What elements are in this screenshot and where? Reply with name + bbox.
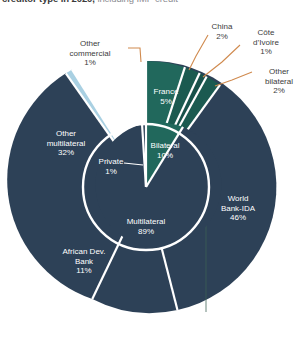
label-bilateral-value: 10% <box>157 151 173 160</box>
label-private-name: Private <box>99 157 124 166</box>
label-world-bank-ida-value: 46% <box>230 213 246 222</box>
label-cote-divoire-name: Côte d’Ivoire <box>253 28 279 46</box>
label-private-value: 1% <box>105 167 117 176</box>
label-other-commercial-name: Other commercial <box>70 39 111 57</box>
label-private: Private 1% <box>89 148 133 176</box>
label-other-commercial: Other commercial 1% <box>48 30 132 68</box>
label-cote-divoire-value: 1% <box>260 47 272 56</box>
label-other-commercial-value: 1% <box>84 58 96 67</box>
label-multilateral: Multilateral 89% <box>114 208 178 236</box>
label-multilateral-name: Multilateral <box>127 217 166 226</box>
chart-title-clipped: creditor type in 2020, including IMF cre… <box>0 0 308 9</box>
label-france-name: France <box>154 87 179 96</box>
label-other-bilateral: Other bilateral 2% <box>254 58 304 96</box>
label-china-name: China <box>212 22 233 31</box>
label-african-dev-bank-value: 11% <box>76 266 91 275</box>
label-france-value: 5% <box>160 97 172 106</box>
label-cote-divoire: Côte d’Ivoire 1% <box>242 19 290 57</box>
label-china: China 2% <box>200 13 244 41</box>
label-world-bank-ida: World Bank-IDA 46% <box>209 185 267 223</box>
leader-cote-divoire <box>203 45 240 77</box>
chart-container: creditor type in 2020, including IMF cre… <box>0 0 308 342</box>
label-other-multilateral-value: 32% <box>58 148 74 157</box>
leader-other-bilateral <box>215 72 252 86</box>
label-bilateral: Bilateral 10% <box>141 132 189 160</box>
page-title: creditor type in 2020, <box>2 0 95 4</box>
label-world-bank-ida-name: World Bank-IDA <box>221 194 255 212</box>
label-african-dev-bank: African Dev. Bank 11% <box>48 238 120 276</box>
page-subtitle: including IMF credit <box>95 0 178 4</box>
label-france: France 5% <box>142 78 190 106</box>
label-african-dev-bank-name: African Dev. Bank <box>63 247 106 265</box>
label-bilateral-name: Bilateral <box>151 141 180 150</box>
label-other-multilateral-name: Other multilateral <box>47 129 86 147</box>
label-multilateral-value: 89% <box>138 227 154 236</box>
label-china-value: 2% <box>216 32 228 41</box>
label-other-bilateral-value: 2% <box>273 86 285 95</box>
label-other-bilateral-name: Other bilateral <box>265 67 293 85</box>
